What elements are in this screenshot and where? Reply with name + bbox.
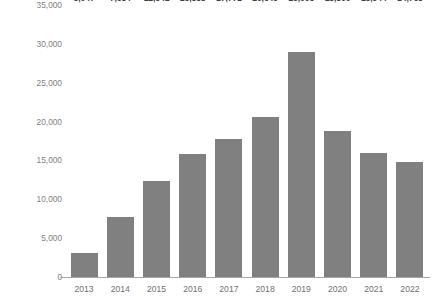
bar-value-label: 12,341 (144, 0, 170, 3)
bar[interactable]: 3,047 (71, 253, 98, 277)
bar-group: 29,005 (283, 5, 319, 277)
bar-group: 17,771 (211, 5, 247, 277)
bar-group: 15,944 (356, 5, 392, 277)
bar[interactable]: 29,005 (288, 52, 315, 277)
bar-series: 3,0477,68412,34115,88817,77120,64929,005… (66, 5, 428, 277)
bar-value-label: 20,649 (252, 0, 278, 3)
bar-value-label: 14,768 (397, 0, 423, 3)
bar-group: 12,341 (138, 5, 174, 277)
bar-group: 7,684 (102, 5, 138, 277)
bar-chart: Tons of garments collected 05,00010,0001… (0, 0, 440, 300)
x-axis-tick-label: 2015 (138, 282, 174, 296)
bar[interactable]: 15,944 (360, 153, 387, 277)
y-axis-tick-label: 35,000 (16, 1, 62, 9)
bar-value-label: 3,047 (74, 0, 95, 3)
x-axis-tick-label: 2014 (102, 282, 138, 296)
y-axis-tick-label: 30,000 (16, 40, 62, 48)
x-axis-tick-label: 2021 (356, 282, 392, 296)
y-axis-tick-label: 20,000 (16, 117, 62, 125)
y-axis-title: Tons of garments collected (0, 0, 16, 16)
x-axis-tick-label: 2022 (392, 282, 428, 296)
bar-value-label: 29,005 (288, 0, 314, 3)
bar-group: 3,047 (66, 5, 102, 277)
bar[interactable]: 15,888 (179, 154, 206, 277)
y-axis-tick-label: 10,000 (16, 195, 62, 203)
x-axis-tick-label: 2013 (66, 282, 102, 296)
bar-group: 18,800 (319, 5, 355, 277)
bar[interactable]: 20,649 (252, 117, 279, 277)
x-axis-tick-label: 2017 (211, 282, 247, 296)
bar-group: 14,768 (392, 5, 428, 277)
bar[interactable]: 14,768 (396, 162, 423, 277)
y-axis-tick-label: 0 (16, 273, 62, 281)
x-axis-ticks: 2013201420152016201720182019202020212022 (66, 282, 428, 296)
bar-value-label: 18,800 (325, 0, 351, 3)
bar-group: 20,649 (247, 5, 283, 277)
bar-value-label: 7,684 (110, 0, 131, 3)
bar-value-label: 15,944 (361, 0, 387, 3)
x-axis-tick-label: 2020 (319, 282, 355, 296)
bar-group: 15,888 (175, 5, 211, 277)
bar[interactable]: 18,800 (324, 131, 351, 277)
bar-value-label: 17,771 (216, 0, 242, 3)
x-axis-tick-label: 2018 (247, 282, 283, 296)
y-axis-tick-label: 15,000 (16, 156, 62, 164)
bar[interactable]: 17,771 (215, 139, 242, 277)
y-axis-tick-label: 5,000 (16, 234, 62, 242)
y-axis-ticks: 05,00010,00015,00020,00025,00030,00035,0… (16, 0, 62, 300)
bar-value-label: 15,888 (180, 0, 206, 3)
x-axis-tick-label: 2019 (283, 282, 319, 296)
y-axis-tick-label: 25,000 (16, 79, 62, 87)
bar[interactable]: 7,684 (107, 217, 134, 277)
x-axis-tick-label: 2016 (175, 282, 211, 296)
bar[interactable]: 12,341 (143, 181, 170, 277)
